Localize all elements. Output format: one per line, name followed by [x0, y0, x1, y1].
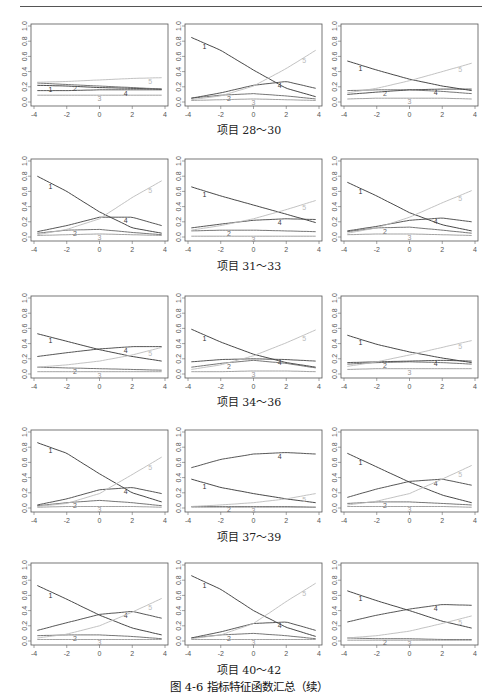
curve-label-4: 4: [124, 217, 128, 224]
curve-label-3: 3: [408, 98, 412, 105]
y-tick-label: 0.8: [331, 442, 338, 452]
x-tick-label: 4: [163, 246, 167, 253]
curve-5: [37, 347, 161, 367]
curve-5: [347, 616, 471, 638]
x-tick-label: -4: [341, 111, 347, 118]
plot-frame: [341, 563, 478, 645]
x-tick-label: -2: [218, 383, 224, 390]
curve-4: [37, 90, 161, 91]
y-tick-label: 0.8: [331, 171, 338, 181]
panel-item-41: 0.00.20.40.60.81.0-4-202412345: [175, 560, 322, 657]
row-caption: 项目 28～30: [217, 124, 282, 137]
x-tick-label: 4: [163, 383, 167, 390]
x-tick-label: 0: [98, 517, 102, 524]
y-tick-label: 0.2: [331, 488, 338, 498]
curve-label-4: 4: [278, 82, 282, 89]
x-tick-label: -2: [218, 650, 224, 657]
curve-label-4: 4: [124, 488, 128, 495]
panel-item-29: 0.00.20.40.60.81.0-4-202412345: [175, 21, 322, 118]
x-tick-label: -4: [31, 517, 37, 524]
x-tick-label: 2: [130, 383, 134, 390]
x-tick-label: 0: [408, 517, 412, 524]
curve-label-5: 5: [458, 343, 462, 350]
y-tick-label: 1.0: [331, 21, 338, 31]
curve-label-3: 3: [408, 640, 412, 647]
curve-label-5: 5: [148, 187, 152, 194]
curve-label-2: 2: [227, 635, 231, 642]
curve-5: [37, 457, 161, 506]
x-tick-label: -4: [341, 246, 347, 253]
curve-label-5: 5: [302, 335, 306, 342]
curve-label-2: 2: [383, 90, 387, 97]
x-tick-label: 4: [163, 517, 167, 524]
y-tick-label: 0.2: [175, 621, 182, 631]
curve-1: [37, 586, 161, 635]
curve-label-1: 1: [48, 86, 52, 93]
curve-label-5: 5: [148, 350, 152, 357]
y-tick-label: 0.4: [21, 339, 28, 349]
curve-label-2: 2: [73, 635, 77, 642]
curve-label-3: 3: [252, 236, 256, 243]
curve-label-5: 5: [302, 496, 306, 503]
y-tick-label: 1.0: [21, 560, 28, 570]
curve-label-1: 1: [48, 447, 52, 454]
x-tick-label: -2: [374, 650, 380, 657]
curve-label-3: 3: [98, 506, 102, 513]
x-tick-label: 4: [317, 383, 321, 390]
x-tick-label: 4: [473, 111, 477, 118]
curve-label-1: 1: [202, 483, 206, 490]
curve-label-5: 5: [302, 204, 306, 211]
y-tick-label: 0.4: [331, 67, 338, 77]
curve-label-3: 3: [98, 639, 102, 646]
y-tick-label: 0.8: [21, 36, 28, 46]
y-tick-label: 0.4: [175, 339, 182, 349]
y-tick-label: 0.0: [175, 636, 182, 646]
y-tick-label: 0.0: [175, 232, 182, 242]
x-tick-label: -2: [218, 517, 224, 524]
y-tick-label: 0.4: [331, 606, 338, 616]
y-tick-label: 1.0: [175, 156, 182, 166]
x-tick-label: 4: [163, 111, 167, 118]
panel-item-35: 0.00.20.40.60.81.0-4-202412345: [175, 293, 322, 390]
y-tick-label: 0.4: [21, 202, 28, 212]
curve-label-1: 1: [358, 459, 362, 466]
figure-grid: 0.00.20.40.60.81.0-4-2024123450.00.20.40…: [0, 0, 498, 695]
x-tick-label: 2: [440, 650, 444, 657]
y-tick-label: 0.6: [175, 51, 182, 61]
panel-item-42: 0.00.20.40.60.81.0-4-202412345: [331, 560, 478, 657]
x-tick-label: 2: [130, 111, 134, 118]
y-tick-label: 0.4: [331, 339, 338, 349]
curve-label-5: 5: [148, 464, 152, 471]
curve-label-2: 2: [73, 230, 77, 237]
curve-label-5: 5: [458, 471, 462, 478]
y-tick-label: 0.2: [175, 82, 182, 92]
y-tick-label: 0.2: [331, 621, 338, 631]
curve-label-1: 1: [202, 335, 206, 342]
curve-label-4: 4: [124, 347, 128, 354]
y-tick-label: 0.2: [21, 621, 28, 631]
x-tick-label: -2: [374, 111, 380, 118]
y-tick-label: 0.6: [175, 186, 182, 196]
panel-item-38: 0.00.20.40.60.81.0-4-202412345: [175, 427, 322, 524]
x-tick-label: -2: [374, 517, 380, 524]
x-tick-label: 2: [440, 517, 444, 524]
curve-4: [191, 219, 315, 228]
row-caption: 项目 40～42: [217, 664, 282, 677]
y-tick-label: 0.4: [175, 606, 182, 616]
curve-1: [37, 176, 161, 233]
panel-item-32: 0.00.20.40.60.81.0-4-202412345: [175, 156, 322, 253]
curve-2: [37, 367, 161, 370]
row-caption: 项目 31～33: [217, 260, 282, 273]
y-tick-label: 0.2: [175, 488, 182, 498]
y-tick-label: 0.4: [175, 67, 182, 77]
x-tick-label: 0: [408, 383, 412, 390]
curve-5: [37, 598, 161, 638]
curve-4: [347, 360, 471, 362]
curve-4: [191, 82, 315, 99]
curve-label-3: 3: [252, 507, 256, 514]
y-tick-label: 0.4: [331, 202, 338, 212]
x-tick-label: 0: [252, 650, 256, 657]
curve-label-1: 1: [358, 339, 362, 346]
y-tick-label: 0.6: [331, 186, 338, 196]
x-tick-label: 0: [252, 111, 256, 118]
